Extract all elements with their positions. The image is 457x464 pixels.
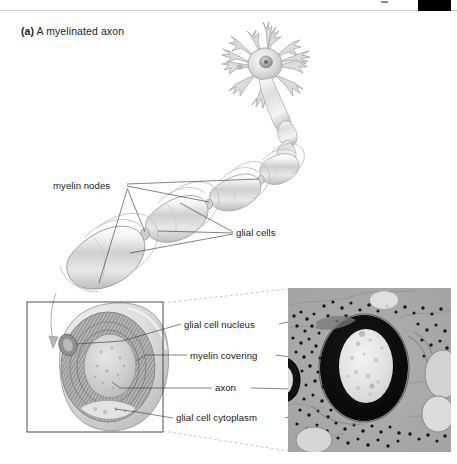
neuron-cell-body-group	[222, 22, 310, 108]
myelin-segment-4	[67, 226, 145, 289]
caption-text: A myelinated axon	[37, 25, 125, 37]
myelin-segment-3	[146, 196, 208, 243]
header-divider	[0, 10, 457, 11]
cutaway-callout-frame	[27, 302, 163, 432]
label-glial-cell-nucleus: glial cell nucleus	[184, 319, 255, 330]
cutaway-cytoplasm	[80, 401, 136, 420]
electron-micrograph	[288, 288, 451, 452]
cutaway-glial-nucleus	[56, 332, 80, 358]
label-myelin-nodes: myelin nodes	[53, 180, 110, 191]
label-glial-cells: glial cells	[236, 227, 275, 238]
header-tick-mark	[381, 1, 388, 3]
figure-caption: (a) A myelinated axon	[21, 25, 124, 37]
leader-lines-myelin-nodes	[99, 179, 259, 283]
node-of-ranvier-3	[141, 228, 149, 240]
figure-panel-a: (a) A myelinated axon	[0, 0, 457, 464]
page-corner-block	[418, 0, 451, 11]
label-myelin-covering: myelin covering	[190, 350, 257, 361]
leader-lines-glial-cells	[130, 203, 233, 253]
node-of-ranvier-2	[205, 199, 212, 209]
node-of-ranvier-1	[258, 176, 264, 185]
myelin-segment-1	[260, 154, 299, 185]
cutaway-arrow	[49, 293, 58, 348]
caption-letter: (a)	[21, 25, 34, 37]
glial-cell-wraps	[60, 143, 304, 292]
myelin-segment-2	[210, 174, 261, 211]
axon-cutaway-crosssection	[56, 303, 169, 431]
label-axon: axon	[215, 382, 236, 393]
label-glial-cell-cytoplasm: glial cell cytoplasm	[176, 412, 257, 423]
callout-connectors	[163, 289, 288, 451]
axon-proximal-nodes	[277, 121, 297, 166]
axon-initial-segment	[259, 78, 291, 134]
